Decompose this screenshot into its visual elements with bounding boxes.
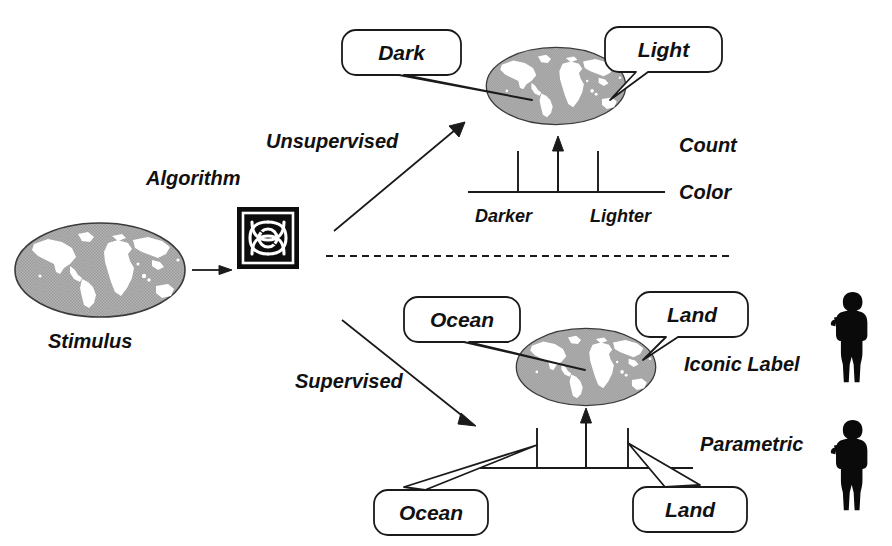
label-supervised: Supervised bbox=[295, 370, 403, 393]
callout-land-bottom-text: Land bbox=[633, 498, 747, 522]
supervised-globe bbox=[516, 328, 655, 405]
stimulus-to-algorithm-arrow bbox=[192, 266, 232, 275]
label-color: Color bbox=[679, 181, 731, 204]
observer-person-bottom bbox=[831, 420, 868, 510]
label-stimulus: Stimulus bbox=[48, 330, 132, 353]
callout-ocean-bottom-text: Ocean bbox=[374, 501, 488, 525]
label-count: Count bbox=[679, 134, 737, 157]
label-darker: Darker bbox=[475, 206, 532, 227]
label-lighter: Lighter bbox=[590, 206, 651, 227]
callout-land-top-text: Land bbox=[636, 303, 748, 327]
label-parametric: Parametric bbox=[700, 433, 803, 456]
callout-dark-text: Dark bbox=[342, 41, 461, 65]
unsupervised-histogram bbox=[468, 136, 665, 192]
stimulus-globe bbox=[15, 223, 185, 317]
supervised-histogram bbox=[480, 408, 693, 468]
callout-ocean-top-text: Ocean bbox=[404, 308, 520, 332]
observer-person-top bbox=[831, 292, 868, 382]
label-iconic: Iconic Label bbox=[684, 353, 800, 376]
label-algorithm: Algorithm bbox=[146, 167, 240, 190]
callout-light-text: Light bbox=[605, 38, 722, 62]
diagram-canvas: Stimulus Algorithm Unsupervised Supervis… bbox=[0, 0, 892, 546]
algorithm-icon bbox=[237, 207, 299, 269]
label-unsupervised: Unsupervised bbox=[266, 130, 398, 153]
diagram-graphics bbox=[0, 0, 892, 546]
